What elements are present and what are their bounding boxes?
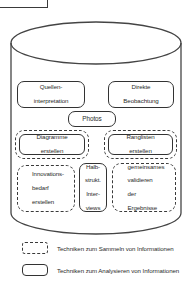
node-halb-line4: views — [83, 205, 103, 212]
node-ranglisten-line2: erstellen — [124, 148, 156, 155]
cropped-frame-artifact — [0, 0, 48, 8]
node-gemein-line4: Ergebnisse — [124, 205, 167, 212]
legend: Techniken zum Sammeln von Informationen … — [0, 238, 192, 288]
node-diagramme-text: Diagrammeerstellen — [32, 134, 71, 155]
node-diagramme-erstellen-inner[interactable]: Diagrammeerstellen — [19, 134, 85, 155]
node-ranglisten-text: Ranglistenerstellen — [122, 134, 158, 155]
legend-swatch-dashed-icon — [22, 242, 48, 254]
node-photos[interactable]: Photos — [68, 111, 116, 127]
node-quellen-line1: Quellen- — [32, 84, 71, 91]
node-gemeinsames-validieren[interactable]: gemeinsamesvalidierenderErgebnisse — [112, 163, 176, 212]
node-quellen-line2: interpretation — [32, 98, 71, 105]
diagram-canvas: Quellen-interpretation DirekteBeobachtun… — [0, 0, 192, 288]
node-quelleninterpretation[interactable]: Quellen-interpretation — [17, 81, 85, 108]
node-quellen-text: Quellen-interpretation — [30, 84, 73, 105]
node-ranglisten-line1: Ranglisten — [124, 134, 156, 141]
node-innov-text: Innovations-bedarferstellen — [24, 171, 68, 205]
node-halb-line1: Halb- — [83, 164, 103, 171]
legend-swatch-solid-icon — [22, 264, 48, 276]
node-gemein-line3: der — [124, 191, 167, 198]
node-diagramme-erstellen-outer[interactable]: Diagrammeerstellen — [15, 130, 89, 159]
node-halbstrukturierte-interviews[interactable]: Halb-strukt.Inter-views — [79, 163, 107, 212]
node-direkte-line1: Direkte — [121, 84, 160, 91]
node-halb-text: Halb-strukt.Inter-views — [81, 164, 105, 212]
node-halb-line2: strukt. — [83, 177, 103, 184]
node-ranglisten-erstellen-inner[interactable]: Ranglistenerstellen — [108, 134, 173, 155]
node-innovationsbedarf-erstellen[interactable]: Innovations-bedarferstellen — [17, 165, 75, 212]
legend-label-sammeln: Techniken zum Sammeln von Informationen — [57, 245, 174, 252]
node-direkte-line2: Beobachtung — [121, 98, 160, 105]
node-halb-line3: Inter- — [83, 191, 103, 198]
node-diagramme-line2: erstellen — [34, 148, 69, 155]
legend-item-sammeln: Techniken zum Sammeln von Informationen — [22, 242, 174, 254]
node-photos-text: Photos — [80, 115, 103, 122]
legend-item-analysieren: Techniken zum Analysieren von Informatio… — [22, 264, 179, 276]
node-diagramme-line1: Diagramme — [34, 134, 69, 141]
node-gemein-line1: gemeinsames — [124, 164, 167, 171]
node-ranglisten-erstellen-outer[interactable]: Ranglistenerstellen — [104, 130, 177, 159]
node-direkte-beobachtung[interactable]: DirekteBeobachtung — [108, 81, 174, 108]
legend-label-analysieren: Techniken zum Analysieren von Informatio… — [57, 267, 179, 274]
node-innov-line2: bedarf — [28, 185, 66, 192]
node-gemein-line2: validieren — [124, 177, 167, 184]
node-innov-line3: erstellen — [28, 199, 66, 206]
node-gemein-text: gemeinsamesvalidierenderErgebnisse — [120, 164, 169, 212]
node-innov-line1: Innovations- — [28, 171, 66, 178]
node-direkte-text: DirekteBeobachtung — [119, 84, 162, 105]
